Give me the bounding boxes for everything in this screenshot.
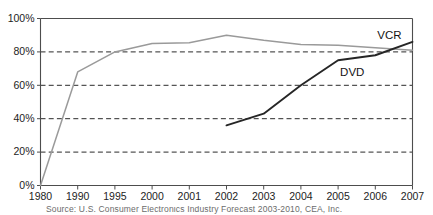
x-tick-label: 2007 [401, 190, 425, 202]
y-tick-label: 20% [13, 145, 34, 157]
x-tick-label: 2004 [289, 190, 313, 202]
chart-caption: Source: U.S. Consumer Electronics Indust… [46, 206, 342, 214]
series-label-dvd: DVD [340, 66, 364, 78]
x-tick-label: 2002 [215, 190, 239, 202]
x-tick-label: 1980 [29, 190, 53, 202]
x-tick-label: 2001 [178, 190, 202, 202]
x-tick-label: 1995 [103, 190, 127, 202]
y-tick-label: 0% [19, 179, 34, 191]
y-tick-label: 100% [8, 12, 35, 24]
x-tick-label: 1990 [66, 190, 90, 202]
series-label-vcr: VCR [377, 29, 401, 41]
x-tick-label: 2005 [326, 190, 350, 202]
x-tick-label: 2003 [252, 190, 276, 202]
x-tick-label: 2000 [140, 190, 164, 202]
y-tick-label: 60% [13, 79, 34, 91]
chart-container: 0%20%40%60%80%100%1980199019952000200120… [0, 0, 433, 215]
x-tick-label: 2006 [364, 190, 388, 202]
chart-caption-strip: Source: U.S. Consumer Electronics Indust… [0, 206, 433, 215]
y-tick-label: 40% [13, 112, 34, 124]
series-line-dvd [227, 42, 413, 126]
plot-frame [41, 19, 413, 186]
y-tick-label: 80% [13, 45, 34, 57]
line-chart: 0%20%40%60%80%100%1980199019952000200120… [0, 0, 433, 215]
